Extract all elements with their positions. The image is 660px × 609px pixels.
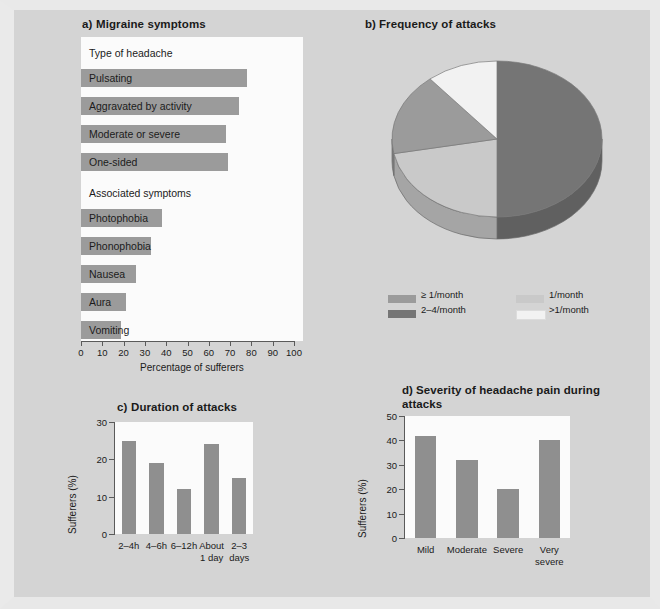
panel-c-duration-of-attacks: c)Duration of attacks 01020302–4h4–6h6–1… [55,400,345,595]
bar [232,478,246,534]
bar-row: Pulsating [81,69,303,87]
panel-d-title: d)Severity of headache pain during attac… [402,383,632,411]
legend-swatch [516,295,544,303]
y-axis-title: Sufferers (%) [67,475,78,534]
x-axis-category-label: Very severe [523,544,576,568]
x-axis-tick-label: 20 [118,347,129,358]
y-axis-tick [109,534,114,535]
legend-label: ≥ 1/month [421,289,463,300]
x-axis-tick [81,341,82,346]
bar-label: Phonophobia [89,237,151,255]
y-axis-tick-label: 50 [373,411,397,422]
bar-row: Phonophobia [81,237,303,255]
y-axis-tick [399,440,404,441]
panel-c-name: Duration of attacks [131,401,237,413]
x-axis-tick-label: 90 [267,347,278,358]
y-axis-tick-label: 10 [373,508,397,519]
y-axis-line [404,416,405,539]
y-axis-tick [399,465,404,466]
bar [539,440,560,538]
legend-label: 1/month [549,289,583,300]
bar-row: Nausea [81,265,303,283]
bar-label: Moderate or severe [89,125,180,143]
panel-b-frequency-of-attacks: b)Frequency of attacks ≥ 1/month1/month2… [365,17,650,347]
bar [204,444,218,534]
x-axis-tick-label: 40 [161,347,172,358]
y-axis-tick [109,497,114,498]
panel-b-title: b)Frequency of attacks [365,17,496,31]
bar-label: Nausea [89,265,125,283]
x-axis-category-label: 2–3 days [219,540,259,564]
x-axis-tick-label: 50 [182,347,193,358]
y-axis-tick [399,416,404,417]
pie-legend: ≥ 1/month1/month2–4/month>1/month [388,292,643,328]
y-axis-line [114,422,115,535]
panel-a-x-axis: 0102030405060708090100 [81,341,303,355]
y-axis-tick-label: 20 [83,454,107,465]
bar [415,436,436,538]
x-axis-tick-label: 100 [286,347,302,358]
x-axis-tick [209,341,210,346]
bar [122,441,136,534]
pie-chart [390,57,605,242]
x-axis-tick [102,341,103,346]
panel-b-name: Frequency of attacks [379,18,496,30]
bar [177,489,191,534]
y-axis-title: Sufferers (%) [357,479,368,538]
panel-c-title: c)Duration of attacks [117,400,237,414]
y-axis-tick-label: 10 [83,491,107,502]
x-axis-tick-label: 10 [97,347,108,358]
bar-label: One-sided [89,153,137,171]
y-axis-tick-label: 30 [373,459,397,470]
x-axis-tick-label: 60 [204,347,215,358]
x-axis-tick-label: 70 [225,347,236,358]
y-axis-tick-label: 20 [373,484,397,495]
bar-row: Moderate or severe [81,125,303,143]
legend-swatch [388,295,416,303]
bar-row: One-sided [81,153,303,171]
bar-row: Aura [81,293,303,311]
bar [149,463,163,534]
bar-row: Photophobia [81,209,303,227]
y-axis-tick [109,459,114,460]
y-axis-tick-label: 40 [373,435,397,446]
legend-swatch [388,310,416,318]
y-axis-tick-label: 0 [373,533,397,544]
x-axis-tick [251,341,252,346]
bar [497,489,518,538]
x-axis-tick-label: 30 [140,347,151,358]
bar-label: Pulsating [89,69,132,87]
panel-d-severity-of-pain: d)Severity of headache pain during attac… [345,383,645,593]
bar-label: Photophobia [89,209,148,227]
bar-row: Aggravated by activity [81,97,303,115]
bar-label: Aggravated by activity [89,97,192,115]
y-axis-tick [399,489,404,490]
x-axis-tick-label: 80 [246,347,257,358]
x-axis-tick-label: 0 [78,347,83,358]
panel-a-name: Migraine symptoms [96,18,206,30]
x-axis-tick [273,341,274,346]
panel-d-name: Severity of headache pain during attacks [402,384,600,410]
y-axis-tick-label: 0 [83,529,107,540]
panel-a-migraine-symptoms: a)Migraine symptoms Type of headachePuls… [63,17,353,377]
bar-label: Vomiting [89,321,129,339]
bar-group-heading: Associated symptoms [89,187,191,199]
bar-group-heading: Type of headache [89,47,172,59]
panel-a-title: a)Migraine symptoms [82,17,206,31]
panel-d-letter: d) [402,383,416,397]
x-axis-tick [188,341,189,346]
x-axis-tick [145,341,146,346]
bar-row: Vomiting [81,321,303,339]
y-axis-tick [399,538,404,539]
figure-canvas: a)Migraine symptoms Type of headachePuls… [0,0,660,609]
bar [456,460,477,538]
y-axis-tick [109,422,114,423]
x-axis-tick [166,341,167,346]
legend-label: >1/month [549,304,589,315]
pie-svg [390,57,605,242]
bar-label: Aura [89,293,111,311]
y-axis-tick [399,514,404,515]
legend-label: 2–4/month [421,304,466,315]
panel-c-letter: c) [117,400,131,414]
legend-swatch [516,310,546,320]
